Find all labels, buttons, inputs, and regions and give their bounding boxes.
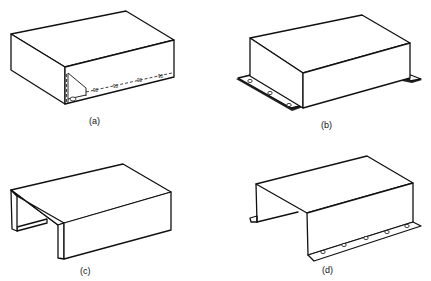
caption-b: (b) bbox=[321, 120, 332, 130]
caption-a: (a) bbox=[89, 116, 100, 126]
figure-canvas: 90 90 90 90 bbox=[0, 0, 431, 281]
caption-c: (c) bbox=[80, 266, 91, 276]
panel-a-drawing: 90 90 90 90 bbox=[11, 11, 174, 104]
panel-c-drawing bbox=[11, 164, 171, 259]
panel-d-drawing bbox=[250, 156, 421, 261]
mount-hole-icon bbox=[385, 230, 389, 233]
caption-d: (d) bbox=[322, 265, 333, 275]
bend-note-1: 90 bbox=[93, 88, 99, 93]
mount-hole-icon bbox=[321, 250, 325, 253]
mount-hole-icon bbox=[364, 236, 368, 239]
mount-hole-icon bbox=[268, 91, 272, 94]
bend-note-3: 90 bbox=[137, 78, 143, 83]
bend-note-2: 90 bbox=[113, 84, 119, 89]
panel-b-drawing bbox=[236, 15, 422, 111]
mount-hole-icon bbox=[405, 224, 409, 227]
mount-hole-icon bbox=[248, 79, 252, 82]
mount-hole-icon bbox=[342, 243, 346, 246]
bend-note-4: 90 bbox=[158, 74, 164, 79]
mount-hole-icon bbox=[287, 103, 291, 106]
